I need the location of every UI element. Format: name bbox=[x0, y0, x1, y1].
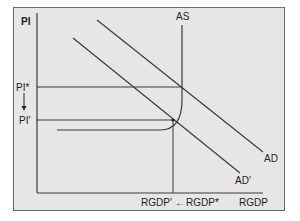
x-axis-label: RGDP bbox=[239, 197, 268, 208]
new-equilibrium-point bbox=[171, 118, 174, 121]
rgdp-prime-label: RGDP′ bbox=[141, 197, 172, 208]
as-label: AS bbox=[176, 11, 190, 22]
output-shift-arrow: ← bbox=[175, 197, 185, 208]
pi-star-label: PI* bbox=[16, 82, 29, 93]
ad-prime-label: AD′ bbox=[235, 175, 251, 186]
y-axis-label: PI bbox=[21, 16, 31, 27]
as-ad-diagram: PI RGDP AS AD AD′ PI* PI′ RGDP′ ← RGDP* bbox=[0, 0, 300, 221]
pi-prime-label: PI′ bbox=[19, 115, 30, 126]
ad-label: AD bbox=[264, 153, 278, 164]
rgdp-star-label: RGDP* bbox=[186, 197, 219, 208]
